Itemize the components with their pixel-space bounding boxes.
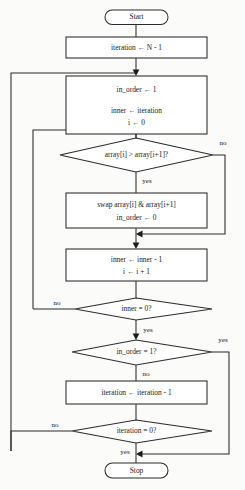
iteration-check-yes-label: yes xyxy=(120,448,130,456)
inner-check-label: inner = 0? xyxy=(121,304,151,313)
node-compare-decision[interactable]: array[i] > array[i+1]? xyxy=(60,138,213,172)
init-pass-line1: in_order ← 1 xyxy=(117,85,157,94)
start-label: Start xyxy=(130,12,145,21)
compare-no-label: no xyxy=(220,139,228,147)
flowchart-canvas: Start iteration ← N - 1 in_order ← 1 inn… xyxy=(0,0,245,490)
compare-yes-label: yes xyxy=(142,177,152,185)
iteration-check-label: iteration = 0? xyxy=(117,426,156,435)
iteration-check-no-label: no xyxy=(52,421,60,429)
swap-shape xyxy=(66,193,207,228)
advance-line2: i ← i + 1 xyxy=(123,267,150,276)
advance-line1: inner ← inner - 1 xyxy=(111,255,163,264)
node-advance[interactable]: inner ← inner - 1 i ← i + 1 xyxy=(66,249,207,281)
node-init-iteration[interactable]: iteration ← N - 1 xyxy=(66,37,207,58)
arrowhead-in-order-yes-merge xyxy=(136,451,143,458)
arrowhead-compare-no-merge xyxy=(136,231,143,238)
arrowhead-into-advance xyxy=(133,243,140,250)
inner-check-no-label: no xyxy=(54,299,62,307)
node-inner-check[interactable]: inner = 0? xyxy=(75,298,212,320)
edge-iteration-check-no xyxy=(11,431,72,451)
node-iteration-check[interactable]: iteration = 0? xyxy=(72,420,212,443)
stop-label: Stop xyxy=(130,466,144,475)
init-pass-line3: i ← 0 xyxy=(128,118,145,127)
flowchart-svg: Start iteration ← N - 1 in_order ← 1 inn… xyxy=(0,0,245,490)
init-pass-line2: inner ← iteration xyxy=(111,106,162,115)
node-swap[interactable]: swap array[i] & array[i+1] in_order ← 0 xyxy=(66,193,207,228)
swap-line1: swap array[i] & array[i+1] xyxy=(97,200,176,209)
dec-iteration-label: iteration ← iteration - 1 xyxy=(101,388,171,397)
node-in-order-check[interactable]: in_order = 1? xyxy=(72,340,212,365)
node-init-pass[interactable]: in_order ← 1 inner ← iteration i ← 0 xyxy=(66,76,207,134)
arrowhead-into-in-order-check xyxy=(133,334,140,341)
init-iteration-label: iteration ← N - 1 xyxy=(111,43,162,52)
compare-decision-label: array[i] > array[i+1]? xyxy=(105,150,168,159)
in-order-check-label: in_order = 1? xyxy=(117,347,157,356)
node-start[interactable]: Start xyxy=(105,10,168,25)
node-dec-iteration[interactable]: iteration ← iteration - 1 xyxy=(66,381,207,404)
inner-check-yes-label: yes xyxy=(143,326,153,334)
in-order-yes-label: yes xyxy=(218,336,228,344)
node-stop[interactable]: Stop xyxy=(105,463,168,478)
in-order-no-label: no xyxy=(143,370,151,378)
swap-line2: in_order ← 0 xyxy=(117,213,157,222)
